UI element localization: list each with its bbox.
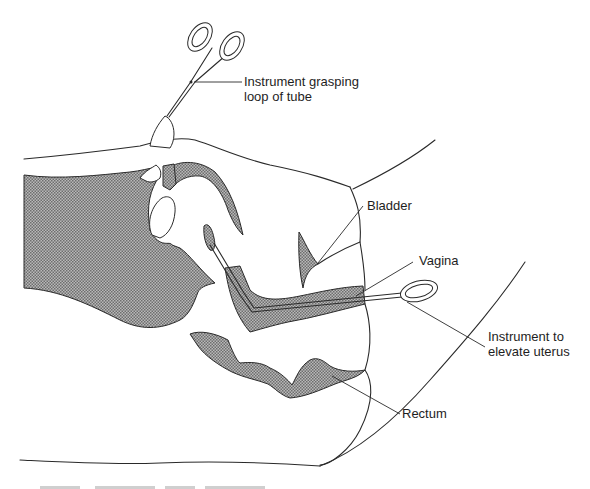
fallopian-tube (163, 164, 176, 190)
label-grasping-line1: Instrument grasping (244, 74, 359, 89)
ovary (150, 197, 176, 238)
rectum-leader-line (332, 376, 400, 414)
label-vagina: Vagina (419, 253, 459, 268)
anatomy-diagram: Instrument grasping loop of tube Bladder… (0, 0, 590, 489)
bladder-leader-line (318, 206, 363, 263)
scissor-forceps-icon (167, 18, 249, 117)
label-bladder: Bladder (367, 198, 412, 213)
rectum (190, 332, 365, 398)
uterus-wall (168, 162, 243, 235)
bladder-cavity (299, 232, 318, 288)
label-elevator-line2: elevate uterus (488, 344, 570, 359)
tube-loop (150, 116, 174, 148)
bladder-outline (350, 187, 365, 290)
anterior-wall-contour (353, 140, 435, 189)
elevator-leader-line (407, 302, 485, 347)
label-rectum: Rectum (402, 406, 447, 421)
label-grasping-line2: loop of tube (244, 89, 312, 104)
label-elevator-line1: Instrument to (488, 329, 564, 344)
perineum-outline (20, 460, 320, 466)
cervix (204, 225, 215, 251)
bladder-septum (318, 242, 360, 264)
posterior-tissue-mass (24, 167, 215, 328)
